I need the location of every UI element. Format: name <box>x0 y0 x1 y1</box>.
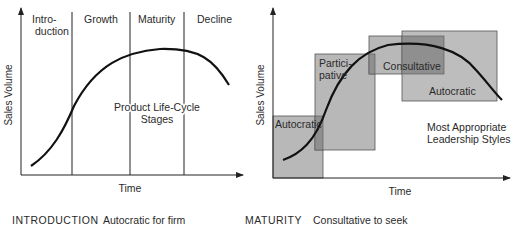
right-y-axis-label: Sales Volume <box>255 64 266 126</box>
stage-growth-label: Growth <box>84 13 118 25</box>
caption-introduction-stage: INTRODUCTION <box>12 214 99 226</box>
stage-maturity-label: Maturity <box>138 13 176 25</box>
overlap-part-cons <box>369 54 375 74</box>
style-participative-2: pative <box>319 69 347 81</box>
stage-intro-label: Intro- <box>32 13 57 25</box>
right-x-axis-label: Time <box>389 185 412 197</box>
stage-intro-label-2: duction <box>35 25 69 37</box>
left-y-axis-label: Sales Volume <box>3 64 14 126</box>
caption-maturity-text: Consultative to seek <box>313 214 408 226</box>
style-autocratic-intro: Autocratic <box>275 118 322 130</box>
leadership-annotation-1: Most Appropriate <box>427 121 507 133</box>
right-chart: Autocratic Partici- pative Consultative … <box>255 8 510 197</box>
plc-annotation-2: Stages <box>141 113 174 125</box>
style-participative-1: Partici- <box>319 57 352 69</box>
style-consultative: Consultative <box>383 60 441 72</box>
life-cycle-diagram: Intro- duction Growth Maturity Decline P… <box>0 0 514 230</box>
leadership-annotation-2: Leadership Styles <box>427 133 510 145</box>
plc-annotation-1: Product Life-Cycle <box>114 101 200 113</box>
left-x-axis-label: Time <box>119 182 142 194</box>
style-autocratic-decline: Autocratic <box>429 85 476 97</box>
caption-maturity-stage: MATURITY <box>245 214 302 226</box>
caption-introduction-text: Autocratic for firm <box>103 214 185 226</box>
left-chart: Intro- duction Growth Maturity Decline P… <box>3 8 243 194</box>
stage-decline-label: Decline <box>197 13 232 25</box>
